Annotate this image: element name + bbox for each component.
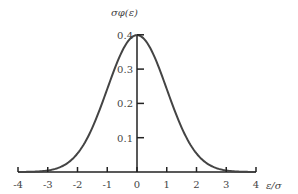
x-tick-label: 0 bbox=[134, 179, 140, 190]
chart: -4-3-2-101234 0.10.20.30.4 ε/σ σφ(ε) bbox=[0, 0, 298, 194]
y-axis-ticks: 0.10.20.30.4 bbox=[117, 30, 144, 144]
y-tick-label: 0.1 bbox=[117, 133, 133, 144]
x-tick-label: 2 bbox=[193, 179, 199, 190]
x-axis-label: ε/σ bbox=[266, 180, 283, 191]
y-tick-label: 0.3 bbox=[117, 64, 133, 75]
x-tick-label: -3 bbox=[43, 179, 53, 190]
y-tick-label: 0.2 bbox=[117, 98, 133, 109]
x-tick-label: -4 bbox=[13, 179, 23, 190]
x-tick-label: 4 bbox=[253, 179, 259, 190]
y-axis-label: σφ(ε) bbox=[111, 7, 138, 18]
x-tick-label: 1 bbox=[164, 179, 170, 190]
x-tick-label: -1 bbox=[102, 179, 112, 190]
x-tick-label: 3 bbox=[223, 179, 229, 190]
x-tick-label: -2 bbox=[73, 179, 83, 190]
y-tick-label: 0.4 bbox=[117, 30, 133, 41]
